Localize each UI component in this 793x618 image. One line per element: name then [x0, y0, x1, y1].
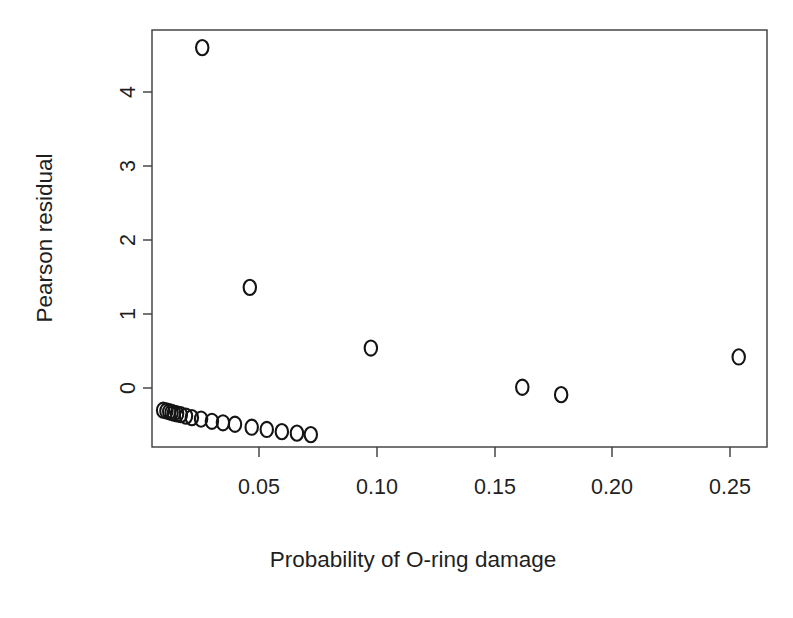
- x-tick-label-0.05: 0.05: [238, 475, 280, 499]
- data-point: [261, 422, 273, 437]
- x-tick-label-0.20: 0.20: [591, 475, 633, 499]
- x-tick-label-0.10: 0.10: [356, 475, 398, 499]
- data-point: [555, 387, 567, 402]
- data-point: [365, 340, 377, 355]
- data-point: [305, 427, 317, 442]
- data-point: [244, 280, 256, 295]
- scatter-plot: 4 3 2 1 0 0.05 0.10 0.15 0.20 0.25 Proba…: [0, 0, 793, 618]
- y-tick-label-3: 3: [116, 160, 140, 172]
- x-axis-tick-labels: 0.05 0.10 0.15 0.20 0.25: [238, 475, 751, 499]
- x-axis-ticks: [259, 447, 730, 457]
- y-axis-title: Pearson residual: [32, 154, 57, 323]
- figure-canvas: 4 3 2 1 0 0.05 0.10 0.15 0.20 0.25 Proba…: [0, 0, 793, 618]
- y-tick-label-1: 1: [116, 308, 140, 320]
- data-point: [276, 424, 288, 439]
- x-tick-label-0.25: 0.25: [709, 475, 751, 499]
- data-point: [733, 349, 745, 364]
- y-axis-ticks: [143, 92, 152, 388]
- y-tick-label-4: 4: [116, 86, 140, 98]
- y-tick-label-2: 2: [116, 234, 140, 246]
- data-point: [229, 417, 241, 432]
- y-tick-label-0: 0: [116, 382, 140, 394]
- data-points-layer: [157, 40, 745, 442]
- data-point: [246, 420, 258, 435]
- y-axis-tick-labels: 4 3 2 1 0: [116, 86, 140, 394]
- x-axis-title: Probability of O-ring damage: [270, 547, 556, 572]
- data-point: [196, 40, 208, 55]
- data-point: [291, 426, 303, 441]
- plot-frame: [152, 30, 767, 447]
- data-point: [516, 380, 528, 395]
- x-tick-label-0.15: 0.15: [474, 475, 516, 499]
